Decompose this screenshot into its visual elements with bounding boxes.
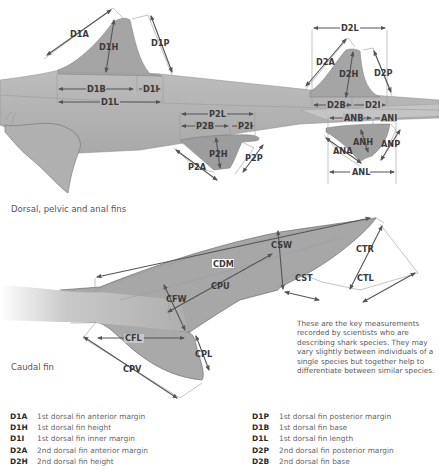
legend-code: D2B [252,457,279,466]
legend-row: D1B1st dorsal fin base [252,422,394,433]
label-CFW: CFW [166,294,187,304]
label-D1B: D1B [87,84,106,94]
legend-row: D2A2nd dorsal fin anterior margin [10,445,148,456]
label-D2L: D2L [341,23,359,33]
shark-measurement-diagram: D1A D1H D1P D1B D1I D1L D2L D2A D2H D2P … [0,0,439,469]
label-P2I: P2I [238,121,253,131]
legend-right: D1P1st dorsal fin posterior margin D1B1s… [252,411,394,467]
label-CSW: CSW [271,240,292,250]
legend-row: D1L1st dorsal fin length [252,433,394,444]
label-D1H: D1H [99,42,118,52]
label-D2B: D2B [327,100,346,110]
legend-code: D1H [10,423,37,432]
label-CST: CST [295,273,313,283]
legend-row: D2B2nd dorsal fin base [252,456,394,467]
label-ANH: ANH [353,137,373,147]
legend-desc: 2nd dorsal fin posterior margin [279,446,394,455]
legend-desc: 2nd dorsal fin height [37,457,114,466]
label-CPL: CPL [195,349,212,359]
legend-row: D2H2nd dorsal fin height [10,456,148,467]
legend-code: D1B [252,423,279,432]
label-CPU: CPU [211,281,230,291]
label-P2L: P2L [209,109,226,119]
label-ANA: ANA [333,146,353,156]
label-CPV: CPV [123,364,142,374]
label-ANB: ANB [344,113,363,123]
legend-code: D1A [10,412,37,421]
legend-row: D2P2nd dorsal fin posterior margin [252,445,394,456]
label-CTL: CTL [357,273,374,283]
pectoral-fin [5,123,80,193]
section-title-fins: Dorsal, pelvic and anal fins [11,204,127,214]
label-D2A: D2A [316,57,335,67]
legend-code: D1P [252,412,279,421]
label-ANP: ANP [381,139,400,149]
legend-desc: 1st dorsal fin posterior margin [279,412,391,421]
legend-desc: 1st dorsal fin length [279,434,353,443]
legend-desc: 1st dorsal fin inner margin [37,434,135,443]
label-D1P: D1P [151,38,170,48]
description-note: These are the key measurements recorded … [297,319,439,375]
label-CDM: CDM [213,259,234,269]
legend-desc: 1st dorsal fin base [279,423,347,432]
legend-desc: 1st dorsal fin height [37,423,111,432]
legend-row: D1H1st dorsal fin height [10,422,148,433]
label-ANI: ANI [381,113,397,123]
label-CTR: CTR [356,244,375,254]
label-P2A: P2A [188,162,207,172]
label-P2B: P2B [196,121,214,131]
label-D2P: D2P [374,68,393,78]
legend-desc: 2nd dorsal fin anterior margin [37,446,148,455]
legend-row: D1I1st dorsal fin inner margin [10,433,148,444]
legend-code: D2P [252,446,279,455]
label-CFL: CFL [125,333,142,343]
label-D1I: D1I [143,84,159,94]
label-D2H: D2H [339,69,358,79]
label-D2I: D2I [365,100,381,110]
legend-left: D1A1st dorsal fin anterior margin D1H1st… [10,411,148,467]
section-title-caudal: Caudal fin [11,362,54,372]
legend-code: D1L [252,434,279,443]
legend-desc: 2nd dorsal fin base [279,457,350,466]
legend-row: D1A1st dorsal fin anterior margin [10,411,148,422]
label-P2H: P2H [209,149,228,159]
label-ANL: ANL [352,167,370,177]
label-D1L: D1L [101,97,119,107]
legend-desc: 1st dorsal fin anterior margin [37,412,145,421]
legend-code: D2A [10,446,37,455]
legend-code: D2H [10,457,37,466]
legend-code: D1I [10,434,37,443]
legend-row: D1P1st dorsal fin posterior margin [252,411,394,422]
label-D1A: D1A [70,29,89,39]
label-P2P: P2P [245,153,263,163]
